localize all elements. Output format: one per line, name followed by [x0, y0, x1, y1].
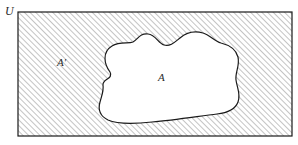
- complement-region-label: A′: [56, 56, 67, 68]
- subset-blob-shape: [99, 32, 239, 123]
- venn-diagram-canvas: U A′ A: [0, 0, 298, 145]
- universe-label: U: [5, 4, 15, 18]
- subset-region-label: A: [157, 71, 165, 83]
- venn-diagram-figure: U A′ A: [0, 0, 298, 145]
